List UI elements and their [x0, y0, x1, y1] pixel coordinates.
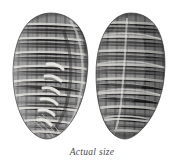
- figure-caption: Actual size: [0, 146, 184, 158]
- shell-illustration-page: Actual size: [0, 0, 184, 166]
- shell-plate-figure: [0, 0, 184, 166]
- dorsal-body-highlight: [106, 20, 146, 104]
